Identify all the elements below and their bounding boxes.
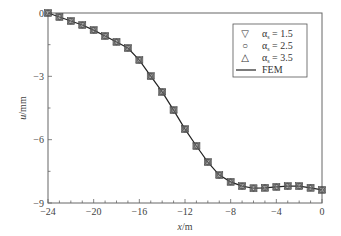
y-axis: 0−3−6−9 — [33, 8, 52, 209]
chart: −24−20−16−12−8−40 0−3−6−9 x/m u/mm ▽ αs … — [0, 0, 341, 236]
x-tick-label: −12 — [177, 206, 193, 217]
y-tick-label: −6 — [33, 134, 44, 145]
legend-label: FEM — [262, 64, 283, 75]
legend-label: αs = 1.5 — [262, 28, 293, 40]
y-tick-label: −3 — [33, 71, 44, 82]
x-axis-label: x/m — [176, 221, 192, 232]
y-tick-label: −9 — [33, 198, 44, 209]
legend-label: αs = 2.5 — [262, 40, 293, 52]
x-tick-label: −16 — [132, 206, 148, 217]
x-tick-label: −8 — [225, 206, 236, 217]
triangle-down-icon: ▽ — [241, 28, 249, 39]
triangle-up-icon: △ — [241, 52, 249, 63]
legend-label: αs = 3.5 — [262, 52, 293, 64]
y-tick-label: 0 — [39, 8, 44, 19]
x-tick-label: −20 — [86, 206, 102, 217]
x-tick-label: −4 — [271, 206, 282, 217]
x-tick-label: 0 — [320, 206, 325, 217]
x-axis: −24−20−16−12−8−40 — [40, 199, 324, 217]
y-axis-label: u/mm — [17, 96, 28, 120]
legend: ▽ αs = 1.5 ○ αs = 2.5 △ αs = 3.5 FEM — [233, 24, 307, 77]
circle-icon: ○ — [242, 40, 248, 51]
